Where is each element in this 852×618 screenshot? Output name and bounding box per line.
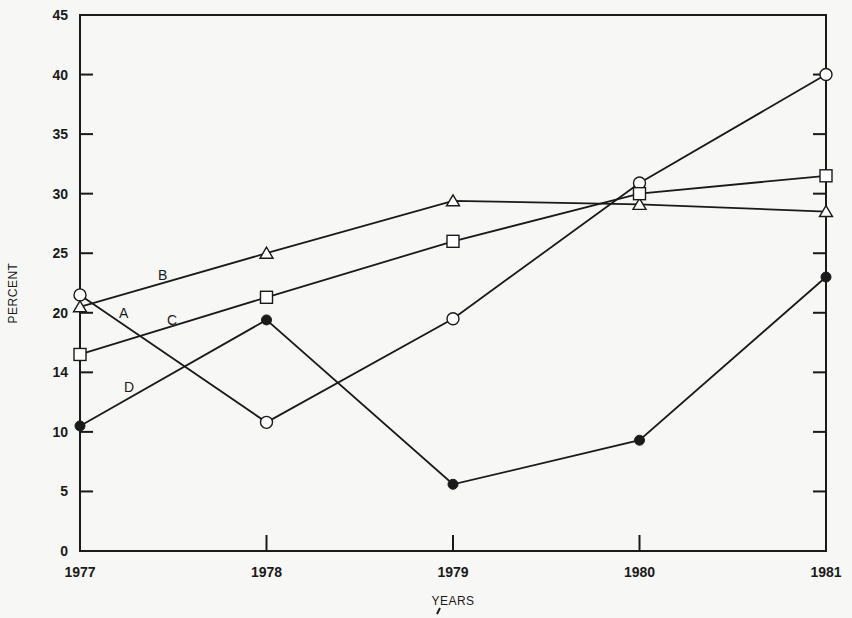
y-tick-label: 35 [52,126,68,142]
marker-c-square-icon [447,235,459,247]
series-label-d: D [124,379,134,395]
y-axis-title: PERCENT [6,262,20,323]
line-chart: 051014202530354045 19771978197919801981 … [0,0,852,618]
marker-d-dot-icon [448,479,458,489]
marker-a-circle-icon [74,289,86,301]
y-tick-label: 10 [52,424,68,440]
x-tick-label: 1981 [810,564,841,580]
x-tick-label: 1977 [64,564,95,580]
y-tick-label: 30 [52,186,68,202]
y-tick-label: 25 [52,245,68,261]
series-label-b: B [158,267,167,283]
series-line-b [80,201,826,307]
y-tick-label: 14 [52,364,68,380]
series-line-d [80,277,826,484]
x-tick-label: 1979 [437,564,468,580]
series-markers [74,69,833,490]
x-axis-ticks: 19771978197919801981 [64,535,841,580]
x-tick-label: 1978 [251,564,282,580]
series-line-a [80,75,826,423]
marker-a-circle-icon [820,69,832,81]
y-tick-label: 5 [60,483,68,499]
marker-c-square-icon [261,291,273,303]
marker-a-circle-icon [261,416,273,428]
marker-d-dot-icon [635,435,645,445]
series-lines [80,75,826,485]
x-axis-title: YEARS [431,594,474,608]
marker-d-dot-icon [262,315,272,325]
plot-border [80,15,826,551]
series-label-a: A [119,305,129,321]
marker-a-circle-icon [447,313,459,325]
marker-d-dot-icon [821,272,831,282]
scan-artifact-mark [437,608,440,614]
marker-c-square-icon [634,188,646,200]
series-label-c: C [167,312,177,328]
y-tick-label: 20 [52,305,68,321]
x-tick-label: 1980 [624,564,655,580]
y-tick-label: 40 [52,67,68,83]
y-tick-label: 0 [60,543,68,559]
marker-d-dot-icon [75,421,85,431]
plot-frame [80,15,826,551]
marker-c-square-icon [820,170,832,182]
y-tick-label: 45 [52,7,68,23]
marker-c-square-icon [74,348,86,360]
y-axis-ticks: 051014202530354045 [52,7,826,559]
